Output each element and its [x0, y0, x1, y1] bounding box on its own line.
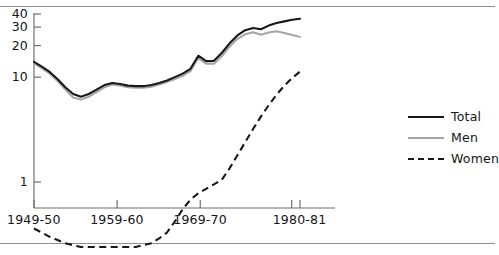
x-axis-ticks	[34, 200, 300, 208]
x-tick-label: 1959-60	[90, 212, 144, 227]
legend-label-women: Women	[451, 151, 499, 166]
x-tick-label: 1969-70	[173, 212, 227, 227]
legend-item-men: Men	[408, 127, 492, 148]
legend-item-women: Women	[408, 148, 492, 169]
legend-label-men: Men	[451, 130, 478, 145]
series-group	[34, 19, 300, 247]
y-tick-label: 1	[2, 174, 28, 189]
legend-line-total-icon	[408, 112, 444, 122]
y-tick-label: 20	[2, 38, 28, 53]
legend-line-men-icon	[408, 133, 444, 143]
y-tick-label: 10	[2, 69, 28, 84]
y-tick-label: 30	[2, 19, 28, 34]
legend-label-total: Total	[451, 109, 481, 124]
y-axis-ticks	[34, 14, 41, 182]
legend-line-women-icon	[408, 154, 444, 164]
legend-item-total: Total	[408, 106, 492, 127]
x-tick-label: 1980-81	[273, 212, 327, 227]
series-line-total	[34, 19, 300, 97]
chart-legend: Total Men Women	[408, 106, 492, 169]
axis-group	[34, 13, 335, 208]
series-line-men	[34, 31, 300, 99]
x-tick-label: 1949-50	[7, 212, 61, 227]
